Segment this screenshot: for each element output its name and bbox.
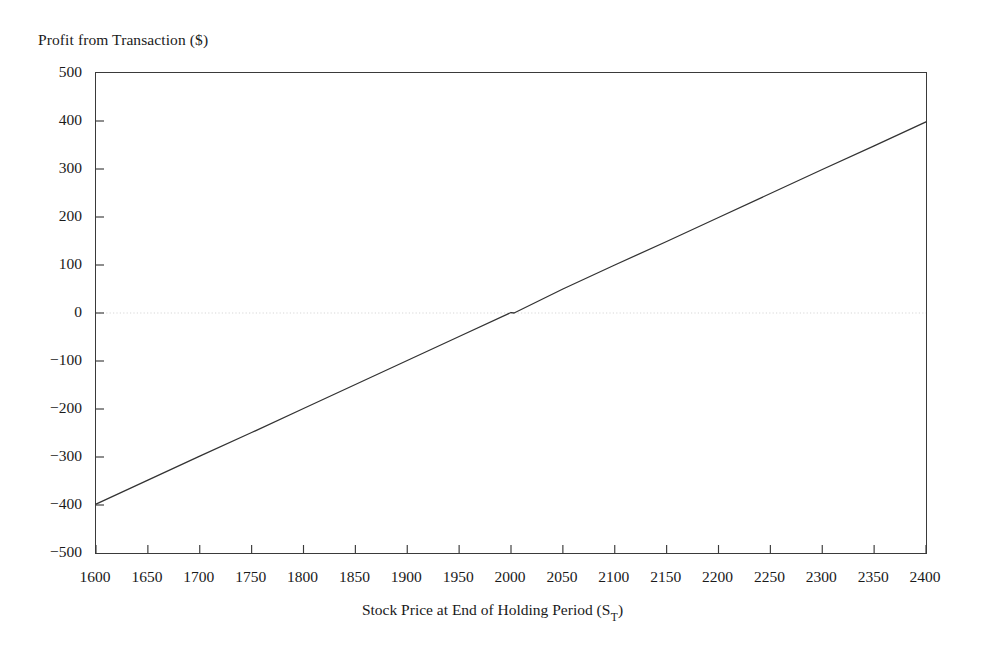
x-axis-title-subscript: T <box>610 611 618 623</box>
x-tick-label: 1900 <box>391 569 422 585</box>
x-tick-label: 2250 <box>754 569 785 585</box>
x-axis-title: Stock Price at End of Holding Period (ST… <box>0 600 985 625</box>
x-tick-label: 1800 <box>287 569 318 585</box>
x-axis-title-suffix: ) <box>618 601 623 618</box>
x-tick-label: 2000 <box>495 569 526 585</box>
x-tick-label: 1700 <box>183 569 214 585</box>
x-tick-label: 2200 <box>702 569 733 585</box>
x-tick-label: 1850 <box>339 569 370 585</box>
x-tick-label: 2350 <box>858 569 889 585</box>
x-tick-label: 1750 <box>235 569 266 585</box>
x-axis-title-main: Stock Price at End of Holding Period (S <box>362 601 610 618</box>
x-tick-label: 2150 <box>650 569 681 585</box>
x-tick-label: 2100 <box>598 569 629 585</box>
x-tick-label: 2050 <box>546 569 577 585</box>
x-tick-label: 1950 <box>443 569 474 585</box>
x-axis-tick-labels: 1600165017001750180018501900195020002050… <box>0 0 985 657</box>
x-tick-label: 1600 <box>80 569 111 585</box>
x-tick-label: 1650 <box>131 569 162 585</box>
x-tick-label: 2300 <box>806 569 837 585</box>
x-tick-label: 2400 <box>910 569 941 585</box>
chart-figure: Profit from Transaction ($) 500400300200… <box>0 0 985 657</box>
